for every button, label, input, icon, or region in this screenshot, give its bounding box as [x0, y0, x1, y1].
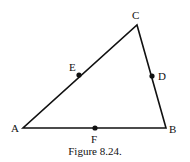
label-f: F [91, 133, 97, 145]
point-d [149, 73, 154, 78]
label-c: C [132, 9, 139, 21]
point-e [76, 72, 81, 77]
label-d: D [158, 70, 166, 82]
label-e: E [69, 61, 76, 73]
label-a: A [11, 122, 19, 134]
triangle-abc [23, 25, 166, 128]
triangle-diagram: A B C E D F Figure 8.24. [0, 0, 190, 162]
point-f [92, 125, 97, 130]
figure-caption: Figure 8.24. [68, 145, 122, 157]
label-b: B [169, 123, 176, 135]
